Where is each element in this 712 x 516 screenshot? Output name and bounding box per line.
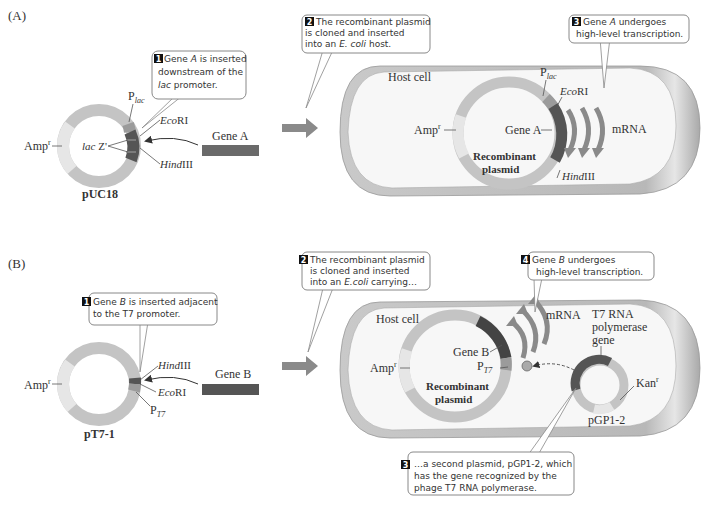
svg-text:Gene A undergoes: Gene A undergoes	[583, 17, 667, 27]
amp-label-b: Ampr	[24, 377, 51, 392]
svg-text:3: 3	[403, 461, 409, 470]
hindiii-label: HindIII	[159, 158, 193, 170]
pt7-label-b: PT7	[150, 403, 166, 419]
svg-text:2: 2	[307, 18, 313, 27]
t7-label-2: polymerase	[592, 320, 647, 334]
svg-text:Gene B is inserted adjacent: Gene B is inserted adjacent	[93, 297, 218, 307]
amp-label: Ampr	[24, 138, 51, 153]
svg-text:high-level transcription.: high-level transcription.	[536, 267, 643, 277]
amp-label-a2: Ampr	[414, 122, 441, 137]
process-arrow-b-icon	[282, 356, 318, 376]
svg-text:Gene B undergoes: Gene B undergoes	[532, 255, 616, 265]
svg-text:Gene A is inserted: Gene A is inserted	[164, 54, 247, 64]
callout-b-step1: 1 Gene B is inserted adjacent to the T7 …	[82, 293, 218, 372]
gene-b-label: Gene B	[215, 367, 251, 381]
svg-text:The recombinant plasmid: The recombinant plasmid	[315, 17, 431, 27]
svg-text:…a second plasmid, pGP1-2, whi: …a second plasmid, pGP1-2, which	[414, 459, 572, 469]
gene-b-bar	[202, 384, 259, 395]
svg-text:The recombinant plasmid: The recombinant plasmid	[309, 255, 425, 265]
ecori-label-b: EcoRI	[157, 386, 186, 398]
recombinant-label-a: Recombinant	[473, 150, 536, 162]
panel-b: (B) Ampr HindIII EcoRI PT7 pT7-1 Gene B …	[8, 252, 700, 495]
panel-b-label: (B)	[8, 256, 25, 271]
host-cell-b-label: Host cell	[376, 312, 420, 326]
gene-a-label: Gene A	[212, 129, 249, 143]
panel-a-label: (A)	[8, 8, 26, 23]
diagram: (A) Ampr lac Z' Plac EcoRI HindIII pUC18…	[0, 0, 712, 516]
pt7-1-plasmid	[63, 348, 135, 420]
svg-text:4: 4	[523, 256, 529, 265]
t7-label-1: T7 RNA	[592, 307, 634, 321]
svg-text:1: 1	[84, 298, 90, 307]
plac-label: Plac	[128, 89, 145, 105]
mrna-label-b: mRNA	[546, 308, 581, 322]
insert-arrow-b-icon	[146, 377, 198, 384]
plasmid-label-b: plasmid	[435, 393, 472, 405]
t7-label-3: gene	[592, 333, 615, 347]
ecori-label: EcoRI	[159, 114, 188, 126]
panel-a: (A) Ampr lac Z' Plac EcoRI HindIII pUC18…	[8, 8, 700, 201]
hindiii-label-b: HindIII	[157, 359, 191, 371]
svg-text:is cloned and inserted: is cloned and inserted	[305, 28, 405, 38]
pt7-1-label: pT7-1	[84, 427, 115, 441]
gene-a-inner-label: Gene A	[505, 123, 542, 137]
puc18-label: pUC18	[82, 187, 118, 201]
svg-text:has the gene recognized by the: has the gene recognized by the	[414, 471, 557, 481]
svg-text:high-level transcription.: high-level transcription.	[576, 29, 683, 39]
recombinant-label-b: Recombinant	[426, 380, 489, 392]
svg-text:is cloned and inserted: is cloned and inserted	[310, 266, 410, 276]
gene-a-bar	[202, 145, 259, 156]
amp-label-b2: Ampr	[370, 360, 397, 375]
insert-arrow-icon	[146, 138, 198, 145]
svg-text:2: 2	[301, 256, 307, 265]
plasmid-label-a: plasmid	[482, 163, 519, 175]
ecori-label-a2: EcoRI	[559, 85, 588, 97]
lacz-label: lac Z'	[82, 140, 107, 152]
svg-text:1: 1	[156, 55, 162, 64]
svg-text:into an E.coli carrying…: into an E.coli carrying…	[310, 277, 417, 287]
svg-text:to the T7 promoter.: to the T7 promoter.	[93, 309, 180, 319]
host-cell-a-label: Host cell	[388, 70, 432, 84]
mrna-label-a: mRNA	[612, 122, 647, 136]
callout-a-step1: 1 Gene A is inserted downstream of the l…	[142, 51, 247, 128]
kan-label: Kanr	[636, 375, 659, 390]
svg-text:lac promoter.: lac promoter.	[158, 80, 218, 90]
svg-text:into an E. coli host.: into an E. coli host.	[305, 39, 391, 49]
svg-text:3: 3	[574, 18, 580, 27]
gene-b-inner-label: Gene B	[453, 345, 489, 359]
hindiii-label-a2: HindIII	[561, 170, 595, 182]
process-arrow-a-icon	[282, 118, 318, 138]
svg-text:downstream of the: downstream of the	[158, 67, 243, 77]
pgp1-2-label: pGP1-2	[588, 413, 625, 427]
svg-text:phage T7 RNA polymerase.: phage T7 RNA polymerase.	[414, 483, 537, 493]
